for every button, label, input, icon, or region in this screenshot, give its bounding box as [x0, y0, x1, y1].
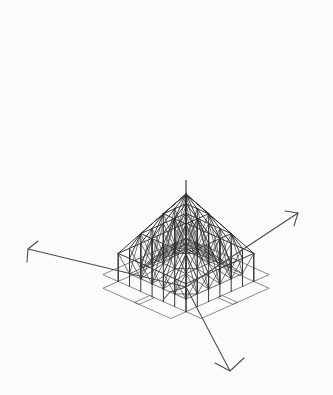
cantilever-plate [103, 281, 154, 304]
bottom-joint-node [196, 267, 198, 269]
coordinate-axis-triad [27, 211, 298, 371]
top-joint-node [196, 218, 198, 220]
bottom-joint-node [219, 257, 221, 259]
cantilever-plate [218, 281, 269, 304]
cantilever-plate [186, 296, 237, 319]
bottom-chord-member [130, 269, 141, 274]
top-joint-node [174, 218, 176, 220]
bottom-joint-node [162, 252, 164, 254]
bottom-joint-node [174, 247, 176, 249]
bottom-joint-node [196, 242, 198, 244]
top-chord-member [118, 248, 129, 253]
top-joint-node [208, 213, 210, 215]
figure-canvas: · · · · ···· ···· · · · · ········ ·····… [0, 0, 333, 395]
bottom-joint-node [174, 267, 176, 269]
bottom-joint-node [162, 262, 164, 264]
axis-z-down [186, 287, 230, 371]
cantilever-plate [135, 296, 186, 319]
bottom-joint-node [208, 252, 210, 254]
axis-y-right-arrowhead [285, 211, 298, 226]
space-frame-drawing [0, 0, 333, 395]
top-joint-node [162, 213, 164, 215]
bottom-chord-member [175, 274, 186, 294]
bottom-joint-node [196, 247, 198, 249]
bottom-chord-member [163, 269, 174, 289]
bottom-joint-node [208, 262, 210, 264]
top-joint-node [196, 208, 198, 210]
top-joint-node [174, 208, 176, 210]
bottom-joint-node [174, 242, 176, 244]
bottom-joint-node [151, 257, 153, 259]
bottom-chord-member [209, 263, 220, 283]
